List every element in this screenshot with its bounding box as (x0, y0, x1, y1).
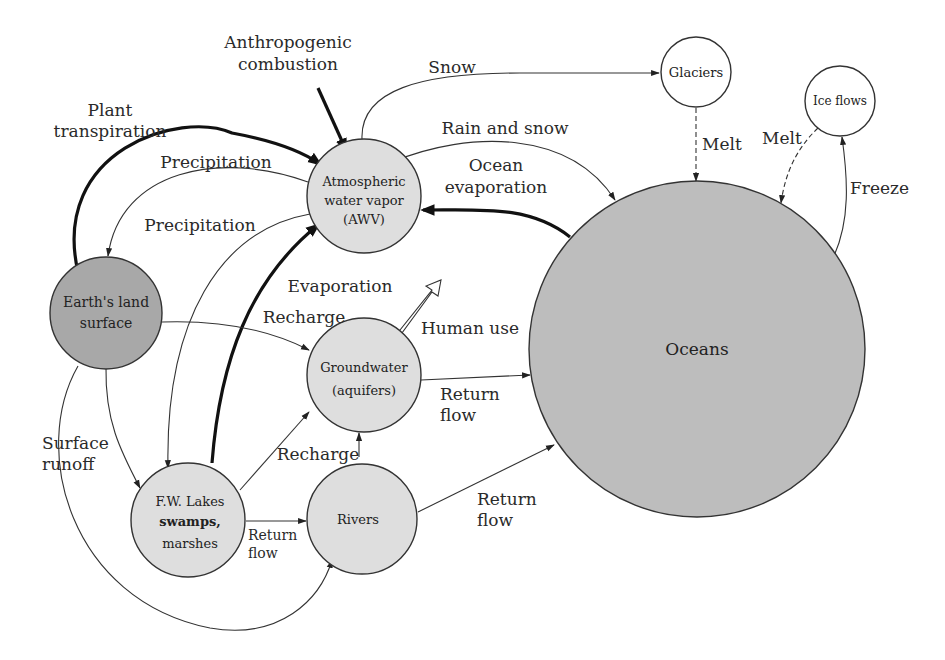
node-awv: Atmospheric water vapor (AWV) (307, 139, 421, 253)
rivers-label: Rivers (337, 512, 379, 527)
land-to-lakes-arrow (106, 368, 140, 488)
evaporation-arrow (212, 225, 318, 463)
awv-label-line3: (AWV) (343, 212, 385, 227)
land-label-line1: Earth's land (63, 294, 149, 310)
label-ocean-evap-1: Ocean (469, 155, 524, 175)
label-plant-1: Plant (88, 100, 133, 120)
label-rain-and-snow: Rain and snow (442, 118, 569, 138)
label-anthropogenic-2: combustion (238, 54, 338, 74)
node-groundwater: Groundwater (aquifers) (307, 318, 421, 432)
water-cycle-diagram: Oceans Glaciers Ice flows Atmospheric wa… (0, 0, 945, 660)
label-lakes-return-1: Return (248, 527, 297, 543)
node-rivers: Rivers (307, 464, 417, 574)
label-freeze: Freeze (850, 178, 909, 198)
label-gw-return-2: flow (440, 405, 477, 425)
ice-flows-label: Ice flows (813, 94, 867, 108)
label-gw-return-1: Return (440, 384, 500, 404)
lakes-label-line2: swamps, (159, 514, 221, 529)
label-evaporation: Evaporation (288, 276, 393, 296)
label-plant-2: transpiration (54, 121, 167, 141)
label-rivers-return-2: flow (477, 510, 514, 530)
node-ice-flows: Ice flows (805, 66, 875, 136)
freeze-arrow (834, 137, 846, 256)
label-ocean-evap-2: evaporation (445, 177, 548, 197)
anthropogenic-arrow (318, 88, 346, 150)
groundwater-label-line2: (aquifers) (332, 383, 396, 398)
label-ice-melt: Melt (762, 128, 802, 148)
precipitation-to-land-arrow (108, 168, 308, 256)
label-recharge-lakes: Recharge (277, 444, 360, 464)
label-recharge-land: Recharge (263, 307, 346, 327)
node-glaciers: Glaciers (661, 37, 731, 107)
label-precipitation-lakes: Precipitation (144, 215, 255, 235)
ocean-evaporation-arrow (423, 210, 570, 237)
land-label-line2: surface (80, 315, 133, 331)
node-land-surface: Earth's land surface (50, 257, 162, 369)
label-anthropogenic-1: Anthropogenic (223, 32, 351, 52)
label-glacier-melt: Melt (702, 134, 742, 154)
lakes-label-line3: marshes (162, 536, 218, 551)
label-lakes-return-2: flow (248, 545, 278, 561)
label-snow: Snow (428, 57, 476, 77)
lakes-label-line1: F.W. Lakes (155, 494, 224, 509)
oceans-label: Oceans (665, 339, 728, 359)
plant-transpiration-arrow (74, 127, 320, 272)
groundwater-label-line1: Groundwater (320, 360, 408, 375)
node-lakes: F.W. Lakes swamps, marshes (131, 463, 245, 577)
node-oceans: Oceans (529, 181, 865, 517)
awv-label-line2: water vapor (324, 193, 404, 208)
label-precipitation-land: Precipitation (160, 152, 271, 172)
label-human-use: Human use (421, 318, 519, 338)
label-rivers-return-1: Return (477, 489, 537, 509)
groundwater-return-arrow (421, 375, 530, 380)
label-surface-runoff-2: runoff (42, 454, 96, 474)
awv-label-line1: Atmospheric (321, 174, 405, 189)
label-surface-runoff-1: Surface (42, 433, 109, 453)
glaciers-label: Glaciers (669, 65, 723, 80)
